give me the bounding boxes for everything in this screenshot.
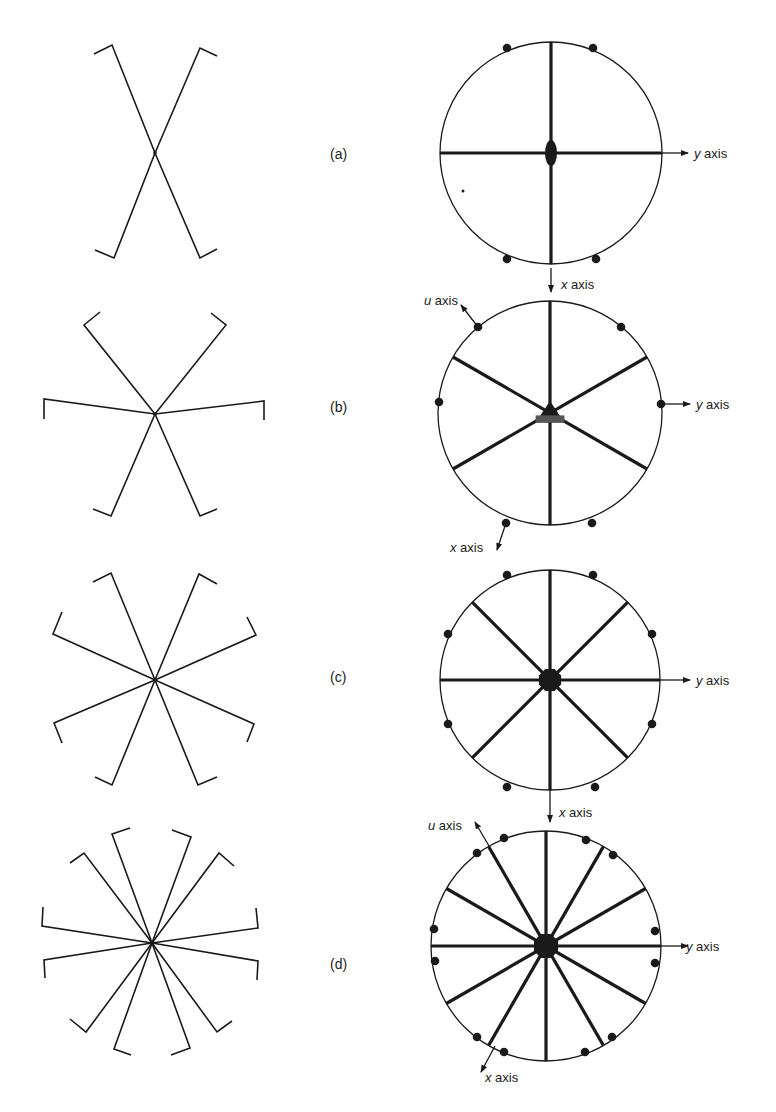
- bent-wire-element: [152, 908, 258, 943]
- u-axis-label: u axis: [428, 818, 462, 833]
- bent-wire-element: [70, 853, 152, 943]
- bent-wire-element: [44, 943, 152, 978]
- x-axis-label: x axis: [560, 277, 595, 292]
- axis-variable: u: [424, 293, 431, 308]
- bent-wire-element: [95, 153, 155, 258]
- x-axis-arrow: [481, 1046, 495, 1072]
- u-axis-arrow: [461, 305, 478, 327]
- axis-word: axis: [492, 1070, 519, 1085]
- u-axis-label: u axis: [424, 293, 458, 308]
- bent-wire-element: [155, 48, 217, 153]
- element-dot: [651, 959, 660, 968]
- wire-dipole-sketch: [44, 312, 264, 516]
- element-dot: [503, 44, 512, 53]
- wire-dipole-sketch: [53, 573, 256, 785]
- element-dot: [503, 783, 512, 792]
- element-dot: [500, 1048, 509, 1057]
- x-axis-arrow: [497, 523, 506, 550]
- element-dot: [648, 720, 657, 729]
- element-dot: [651, 927, 660, 936]
- element-dot: [588, 519, 597, 528]
- axis-variable: u: [428, 818, 435, 833]
- circular-array-diagram: u axisy axisx axis: [424, 293, 730, 555]
- bent-wire-element: [152, 830, 191, 943]
- panel-label: (b): [330, 399, 347, 415]
- element-dot: [609, 851, 618, 860]
- element-dot: [589, 571, 598, 580]
- feed-point: [150, 941, 154, 945]
- element-dot: [648, 630, 657, 639]
- element-dot: [431, 957, 440, 966]
- axis-word: axis: [568, 277, 595, 292]
- bent-wire-element: [70, 943, 152, 1032]
- x-axis-label: x axis: [449, 540, 484, 555]
- center-hub: [545, 140, 557, 166]
- bent-wire-element: [155, 153, 217, 258]
- axis-word: axis: [566, 805, 593, 820]
- element-dot: [473, 1033, 482, 1042]
- bent-wire-element: [42, 907, 152, 943]
- y-axis-label: y axis: [695, 397, 730, 412]
- panel-c: (c) y axisx axis: [53, 570, 730, 822]
- bent-wire-element: [44, 399, 155, 419]
- element-dot: [500, 834, 509, 843]
- bent-wire-element: [152, 853, 234, 943]
- y-axis-label: y axis: [685, 939, 720, 954]
- axis-word: axis: [701, 146, 728, 161]
- panel-b: (b) u axisy axisx axis: [44, 293, 730, 555]
- element-dot: [582, 836, 591, 845]
- bent-wire-element: [155, 617, 256, 680]
- x-axis-label: x axis: [484, 1070, 519, 1085]
- bent-wire-element: [93, 573, 155, 680]
- y-axis-label: y axis: [695, 673, 730, 688]
- element-dot: [617, 323, 626, 332]
- antenna-array-diagram: (a) y axisx axis (b) u axisy axisx axis …: [0, 0, 776, 1112]
- center-hub: [539, 669, 561, 691]
- bent-wire-element: [112, 828, 152, 943]
- element-dot: [473, 849, 482, 858]
- bent-wire-element: [155, 680, 217, 785]
- bent-wire-element: [155, 680, 254, 742]
- axis-word: axis: [693, 939, 720, 954]
- element-dot: [591, 783, 600, 792]
- circular-array-diagram: u axisy axisx axis: [428, 818, 720, 1085]
- feed-point: [153, 412, 157, 416]
- panel-d: (d) u axisy axisx axis: [42, 818, 720, 1085]
- axis-word: axis: [703, 673, 730, 688]
- circular-array-diagram: y axisx axis: [440, 42, 728, 292]
- element-dot: [435, 398, 444, 407]
- bent-wire-element: [155, 401, 264, 420]
- element-dot: [608, 1033, 617, 1042]
- center-hub-base: [536, 415, 565, 422]
- axis-word: axis: [703, 397, 730, 412]
- panel-label: (a): [330, 146, 347, 162]
- center-hub: [534, 934, 558, 958]
- bent-wire-element: [114, 943, 152, 1055]
- y-axis-label: y axis: [693, 146, 728, 161]
- bent-wire-element: [84, 312, 155, 414]
- element-dot: [592, 255, 601, 264]
- element-dot: [444, 720, 453, 729]
- bent-wire-element: [93, 414, 155, 516]
- feed-point: [153, 678, 157, 682]
- axis-word: axis: [457, 540, 484, 555]
- bent-wire-element: [152, 943, 258, 980]
- panel-label: (c): [330, 669, 346, 685]
- bent-wire-element: [152, 943, 190, 1055]
- element-dot: [503, 571, 512, 580]
- element-dot: [444, 630, 453, 639]
- element-dot: [589, 44, 598, 53]
- element-dot: [503, 255, 512, 264]
- stray-mark: [462, 190, 465, 193]
- panel-label: (d): [330, 956, 347, 972]
- element-dot: [430, 925, 439, 934]
- bent-wire-element: [155, 574, 217, 680]
- wire-dipole-sketch: [42, 828, 258, 1055]
- bent-wire-element: [155, 313, 226, 414]
- element-dot: [581, 1048, 590, 1057]
- axis-word: axis: [435, 818, 462, 833]
- bent-wire-element: [152, 943, 232, 1032]
- u-axis-arrow: [475, 822, 489, 846]
- bent-wire-element: [155, 414, 217, 516]
- bent-wire-element: [54, 680, 155, 743]
